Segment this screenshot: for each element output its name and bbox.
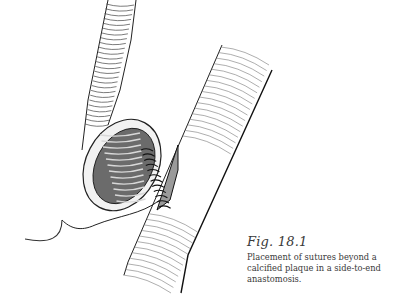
- graft-ring: [100, 42, 126, 44]
- graft-ring: [91, 90, 115, 92]
- graft-ring: [85, 124, 108, 126]
- artery-ring: [214, 64, 262, 82]
- needle-curve: [25, 220, 62, 241]
- artery-ring: [219, 53, 267, 71]
- artery-ring: [140, 236, 188, 254]
- artery-ring: [197, 103, 245, 121]
- artery-ring: [190, 119, 238, 137]
- graft-ring: [100, 38, 126, 40]
- artery-ring: [204, 86, 252, 104]
- suture-stitch: [152, 185, 164, 187]
- graft-ring: [88, 110, 112, 112]
- artery-ring: [183, 136, 231, 154]
- artery-ring: [221, 47, 269, 65]
- artery-ring: [130, 258, 178, 276]
- graft-ring: [93, 81, 118, 83]
- artery-ring: [135, 247, 183, 265]
- artery-ring: [128, 264, 176, 282]
- graft-ring: [94, 76, 119, 78]
- figure-caption-text: Placement of sutures beyond a calcified …: [247, 252, 396, 285]
- figure-container: Fig. 18.1 Placement of sutures beyond a …: [0, 0, 396, 303]
- graft-ring: [96, 62, 122, 64]
- graft-ring: [101, 33, 128, 35]
- graft-ring: [92, 86, 117, 88]
- graft-ring: [99, 47, 125, 49]
- graft-ring: [105, 9, 133, 11]
- graft-ring: [89, 100, 113, 102]
- graft-ring: [102, 28, 129, 30]
- artery-ring: [216, 58, 264, 76]
- graft-ring: [105, 14, 132, 16]
- artery-ring: [123, 275, 171, 293]
- figure-caption: Fig. 18.1 Placement of sutures beyond a …: [247, 234, 396, 285]
- graft-ring: [89, 105, 113, 107]
- artery-ring: [149, 214, 197, 232]
- graft-ring: [90, 95, 114, 97]
- graft-left-wall: [82, 0, 108, 150]
- graft-right-wall: [108, 0, 136, 125]
- artery-ring: [209, 75, 257, 93]
- figure-label: Fig. 18.1: [247, 234, 396, 250]
- artery-ring: [188, 125, 236, 143]
- artery-ring: [202, 91, 250, 109]
- artery-ring: [192, 114, 240, 132]
- artery-ring: [211, 69, 259, 87]
- artery-ring: [195, 108, 243, 126]
- artery-ring: [137, 242, 185, 260]
- graft-ring: [86, 119, 109, 121]
- graft-ring: [95, 66, 120, 68]
- graft-ring: [98, 52, 124, 54]
- graft-ring: [94, 71, 119, 73]
- artery-ring: [207, 80, 255, 98]
- graft-ring: [103, 23, 130, 25]
- graft-ring: [97, 57, 123, 59]
- graft-ring: [87, 114, 110, 116]
- artery-ring: [133, 253, 181, 271]
- artery-ring: [142, 231, 190, 249]
- artery-ring: [147, 219, 195, 237]
- artery-ring: [199, 97, 247, 115]
- artery-ring: [125, 269, 173, 287]
- graft-ring: [106, 4, 134, 6]
- graft-ring: [104, 18, 131, 20]
- artery-ring: [145, 225, 193, 243]
- artery-ring: [185, 130, 233, 148]
